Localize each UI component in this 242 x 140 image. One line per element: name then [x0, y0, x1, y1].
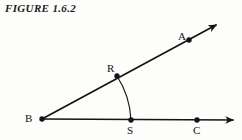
- point-label-c: C: [193, 125, 200, 136]
- point-c-dot: [194, 117, 199, 122]
- point-r-dot: [114, 73, 119, 78]
- angle-arc-rs: [117, 76, 131, 120]
- ray-bc: [42, 119, 233, 120]
- point-s-dot: [128, 117, 133, 122]
- point-label-r: R: [107, 63, 114, 74]
- point-a-dot: [186, 37, 191, 42]
- point-label-a: A: [178, 31, 186, 42]
- point-label-s: S: [127, 125, 133, 136]
- point-b-dot: [39, 116, 44, 121]
- figure-container: FIGURE 1.6.2 A R B S C: [0, 0, 242, 140]
- point-label-b: B: [25, 113, 32, 124]
- angle-diagram: [0, 0, 242, 140]
